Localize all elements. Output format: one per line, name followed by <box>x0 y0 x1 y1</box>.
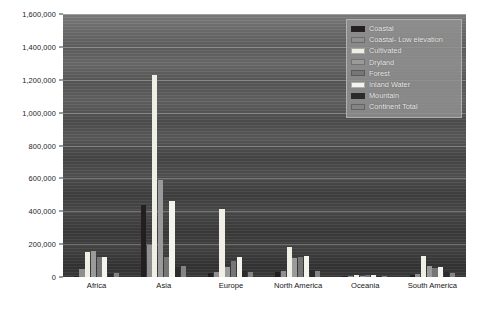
bar <box>275 272 280 277</box>
bar <box>97 257 102 277</box>
legend-label: Forest <box>369 70 390 77</box>
legend-swatch <box>351 59 365 65</box>
bar <box>292 258 297 277</box>
bar <box>114 273 119 277</box>
legend-item: Coastal <box>351 23 457 34</box>
y-axis-tick-label: 1,600,000 <box>22 10 56 19</box>
bar <box>237 257 242 277</box>
legend-label: Coastal- Low elevation <box>369 36 443 43</box>
bar <box>438 267 443 277</box>
legend-swatch <box>351 93 365 99</box>
bar <box>410 275 415 277</box>
x-axis-tick-label: Africa <box>87 281 106 290</box>
bar <box>415 274 420 277</box>
bar <box>164 257 169 277</box>
bar <box>421 256 426 277</box>
bar <box>214 272 219 277</box>
bar <box>79 269 84 277</box>
legend-item: Coastal- Low elevation <box>351 34 457 45</box>
bar-group <box>130 14 197 277</box>
bar <box>427 266 432 278</box>
x-axis: AfricaAsiaEuropeNorth AmericaOceaniaSout… <box>63 281 466 301</box>
bar <box>298 257 303 277</box>
bar <box>208 273 213 277</box>
legend-item: Continent Total <box>351 101 457 112</box>
x-axis-tick-label: Europe <box>219 281 244 290</box>
legend-label: Inland Water <box>369 81 410 88</box>
bar <box>444 272 449 277</box>
legend-item: Forest <box>351 68 457 79</box>
legend-swatch <box>351 48 365 54</box>
legend-label: Mountain <box>369 92 399 99</box>
legend-item: Inland Water <box>351 79 457 90</box>
bar <box>219 209 224 277</box>
bar <box>360 276 365 277</box>
bar <box>450 273 455 277</box>
legend-item: Cultivated <box>351 45 457 56</box>
bar-group <box>265 14 332 277</box>
y-axis-tick-label: 600,000 <box>29 174 56 183</box>
bar <box>304 256 309 277</box>
bar <box>141 205 146 277</box>
y-axis-tick-label: 800,000 <box>29 141 56 150</box>
bar <box>175 267 180 277</box>
bar <box>108 274 113 277</box>
bar <box>287 247 292 277</box>
bar <box>102 257 107 277</box>
bar <box>248 272 253 277</box>
legend-swatch <box>351 82 365 88</box>
legend-swatch <box>351 26 365 32</box>
bar <box>432 268 437 277</box>
bar <box>158 180 163 277</box>
y-axis-tick-label: 1,200,000 <box>22 75 56 84</box>
bar <box>169 201 174 277</box>
bar <box>91 251 96 277</box>
bar <box>225 267 230 277</box>
bar <box>377 276 382 277</box>
legend-label: Coastal <box>369 25 394 32</box>
bar <box>348 276 353 277</box>
bar-chart: 0200,000400,000600,000800,0001,000,0001,… <box>0 0 479 309</box>
x-axis-tick-label: South America <box>408 281 457 290</box>
bar <box>242 271 247 277</box>
legend-swatch <box>351 37 365 43</box>
bar <box>181 266 186 278</box>
y-axis-tick-label: 1,400,000 <box>22 42 56 51</box>
bar <box>152 75 157 277</box>
legend: CoastalCoastal- Low elevationCultivatedD… <box>346 19 462 118</box>
bar <box>147 245 152 277</box>
y-axis-tick-label: 1,000,000 <box>22 108 56 117</box>
bar-group <box>197 14 264 277</box>
bar <box>310 270 315 277</box>
bar <box>382 276 387 277</box>
bar <box>371 275 376 277</box>
bar <box>365 275 370 277</box>
legend-swatch <box>351 104 365 110</box>
legend-swatch <box>351 70 365 76</box>
y-axis-tick-label: 0 <box>52 273 56 282</box>
x-axis-tick-label: Oceania <box>351 281 379 290</box>
y-axis-tick-label: 200,000 <box>29 240 56 249</box>
bar <box>315 271 320 277</box>
legend-label: Dryland <box>369 59 394 66</box>
x-axis-tick-label: North America <box>274 281 322 290</box>
legend-item: Dryland <box>351 57 457 68</box>
x-axis-tick-label: Asia <box>156 281 171 290</box>
bar <box>342 276 347 277</box>
y-axis: 0200,000400,000600,000800,0001,000,0001,… <box>0 0 61 309</box>
bar <box>231 261 236 277</box>
legend-item: Mountain <box>351 90 457 101</box>
legend-label: Continent Total <box>369 103 418 110</box>
bar-group <box>63 14 130 277</box>
y-axis-tick-label: 400,000 <box>29 207 56 216</box>
bar <box>74 276 79 277</box>
bar <box>85 252 90 277</box>
bar <box>281 271 286 277</box>
bar <box>354 275 359 277</box>
legend-label: Cultivated <box>369 47 401 54</box>
